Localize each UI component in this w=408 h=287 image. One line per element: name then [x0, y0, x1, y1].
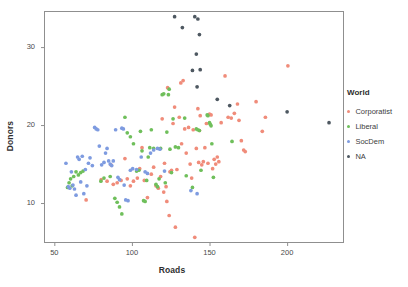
data-point: [105, 179, 109, 183]
data-point: [125, 177, 129, 181]
data-point: [260, 129, 264, 133]
data-point: [123, 157, 127, 161]
legend-item-na[interactable]: NA: [347, 149, 407, 164]
legend-item-liberal[interactable]: Liberal: [347, 119, 407, 134]
data-point: [162, 190, 166, 194]
data-point: [194, 147, 198, 151]
data-point: [149, 128, 153, 132]
data-point: [165, 130, 169, 134]
data-point: [210, 142, 214, 146]
data-point: [171, 117, 175, 121]
data-point: [197, 161, 201, 165]
data-point: [212, 158, 216, 162]
data-point: [68, 186, 72, 190]
data-point: [74, 170, 78, 174]
data-point: [115, 181, 119, 185]
data-point: [118, 205, 122, 209]
data-point: [177, 115, 181, 119]
data-point: [70, 170, 74, 174]
data-point: [196, 17, 200, 21]
data-point: [67, 181, 71, 185]
data-point: [163, 169, 167, 173]
data-point: [71, 183, 75, 187]
data-point: [171, 122, 175, 126]
data-point: [99, 179, 103, 183]
data-point: [189, 189, 193, 193]
data-point: [163, 161, 167, 165]
data-point: [223, 74, 227, 78]
data-point: [80, 154, 84, 158]
data-point: [229, 116, 233, 120]
data-point: [194, 52, 198, 56]
data-point: [212, 175, 216, 179]
data-point: [173, 15, 177, 19]
data-point: [239, 139, 243, 143]
data-point: [152, 148, 156, 152]
data-point: [199, 168, 203, 172]
data-point: [132, 179, 136, 183]
data-point: [162, 92, 166, 96]
data-point: [73, 187, 77, 191]
data-point: [168, 147, 172, 151]
data-point: [125, 131, 129, 135]
data-point: [209, 113, 213, 117]
data-point: [198, 33, 202, 37]
data-point: [230, 140, 234, 144]
data-point: [191, 69, 195, 73]
data-point: [74, 193, 78, 197]
data-point: [285, 110, 289, 114]
data-point: [193, 235, 197, 239]
data-point: [203, 146, 207, 150]
data-point: [135, 168, 139, 172]
data-point: [139, 155, 143, 159]
data-point: [149, 151, 153, 155]
data-point: [243, 150, 247, 154]
data-point: [102, 176, 106, 180]
data-point: [170, 171, 174, 175]
data-point: [143, 200, 147, 204]
data-point: [188, 162, 192, 166]
data-point: [79, 180, 83, 184]
data-point: [173, 105, 177, 109]
data-point: [96, 128, 100, 132]
y-tick-label: 30: [13, 42, 35, 51]
data-point: [198, 68, 202, 72]
legend-item-corporatist[interactable]: Corporatist: [347, 104, 407, 119]
data-point: [219, 121, 223, 125]
data-point: [156, 185, 160, 189]
data-point: [286, 64, 290, 68]
data-point: [181, 79, 185, 83]
data-point: [187, 126, 191, 130]
data-point: [140, 149, 144, 153]
data-point: [164, 185, 168, 189]
data-point: [191, 128, 195, 132]
data-point: [184, 151, 188, 155]
data-point: [198, 129, 202, 133]
legend-title: World: [347, 88, 407, 97]
legend-item-socdem[interactable]: SocDem: [347, 134, 407, 149]
data-point: [104, 151, 108, 155]
data-point: [215, 155, 219, 159]
legend-item-label: NA: [355, 152, 365, 161]
data-point: [206, 161, 210, 165]
data-point: [254, 100, 258, 104]
x-tick-label: 150: [195, 248, 225, 257]
data-point: [114, 128, 118, 132]
data-point: [183, 127, 187, 131]
data-point: [90, 164, 94, 168]
data-point: [226, 115, 230, 119]
data-point: [233, 112, 237, 116]
data-point: [209, 124, 213, 128]
y-tick-label: 20: [13, 120, 35, 129]
scatter-plot-figure: Roads Donors 50100150200 102030 World Co…: [0, 0, 408, 287]
data-point: [184, 174, 188, 178]
data-point: [145, 179, 149, 183]
data-point: [174, 225, 178, 229]
data-point: [84, 168, 88, 172]
data-point: [122, 183, 126, 187]
data-point: [195, 85, 199, 89]
legend: World CorporatistLiberalSocDemNA: [347, 88, 407, 164]
legend-items: CorporatistLiberalSocDemNA: [347, 104, 407, 164]
legend-item-label: Corporatist: [355, 107, 392, 116]
data-point: [148, 146, 152, 150]
